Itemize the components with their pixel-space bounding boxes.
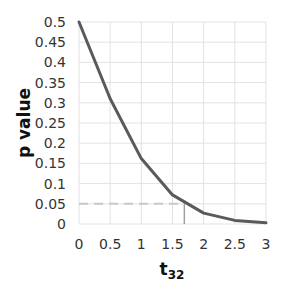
- y-tick-label: 0.1: [44, 176, 66, 192]
- x-axis-ticks: 00.511.522.53: [75, 236, 271, 252]
- y-tick-label: 0: [57, 216, 66, 232]
- x-tick-label: 1.5: [161, 236, 183, 252]
- y-tick-label: 0.25: [35, 115, 66, 131]
- y-tick-label: 0.05: [35, 196, 66, 212]
- x-tick-label: 2.5: [224, 236, 246, 252]
- y-tick-label: 0.5: [44, 14, 66, 30]
- y-tick-label: 0.4: [44, 54, 66, 70]
- x-tick-label: 3: [262, 236, 271, 252]
- y-tick-label: 0.45: [35, 34, 66, 50]
- x-tick-label: 0: [75, 236, 84, 252]
- x-tick-label: 0.5: [99, 236, 121, 252]
- p-value-chart: 00.050.10.150.20.250.30.350.40.450.5 00.…: [0, 0, 284, 296]
- y-tick-label: 0.2: [44, 135, 66, 151]
- y-axis-title: p value: [14, 88, 34, 158]
- y-axis-ticks: 00.050.10.150.20.250.30.350.40.450.5: [35, 14, 66, 232]
- y-tick-label: 0.35: [35, 75, 66, 91]
- annotations: [79, 204, 184, 224]
- y-tick-label: 0.15: [35, 155, 66, 171]
- y-tick-label: 0.3: [44, 95, 66, 111]
- x-axis-title: t32: [160, 259, 185, 282]
- x-tick-label: 1: [137, 236, 146, 252]
- x-tick-label: 2: [199, 236, 208, 252]
